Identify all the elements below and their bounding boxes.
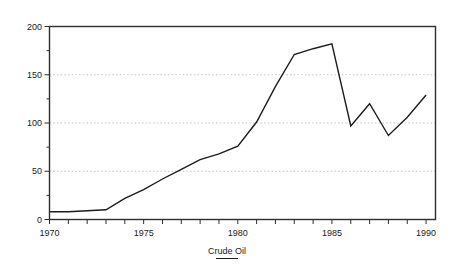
x-axis-label: 1980: [228, 228, 248, 238]
legend: Crude Oil: [208, 246, 246, 259]
crude-oil-chart: 05010015020019701975198019851990 Crude O…: [0, 0, 457, 276]
x-axis-label: 1975: [134, 228, 154, 238]
axis-layer: 05010015020019701975198019851990: [27, 22, 436, 238]
chart-canvas: 05010015020019701975198019851990 Crude O…: [0, 0, 457, 276]
crude-oil-line: [50, 44, 427, 212]
series-layer: [50, 44, 427, 212]
x-axis-label: 1985: [322, 228, 342, 238]
x-axis-label: 1990: [416, 228, 436, 238]
y-axis-label: 150: [27, 70, 42, 80]
grid-layer: [50, 75, 436, 172]
y-axis-label: 50: [32, 166, 42, 176]
y-axis-label: 200: [27, 22, 42, 32]
legend-crude-oil-label: Crude Oil: [208, 246, 246, 256]
y-axis-label: 100: [27, 118, 42, 128]
x-axis-label: 1970: [39, 228, 59, 238]
y-axis-label: 0: [37, 215, 42, 225]
